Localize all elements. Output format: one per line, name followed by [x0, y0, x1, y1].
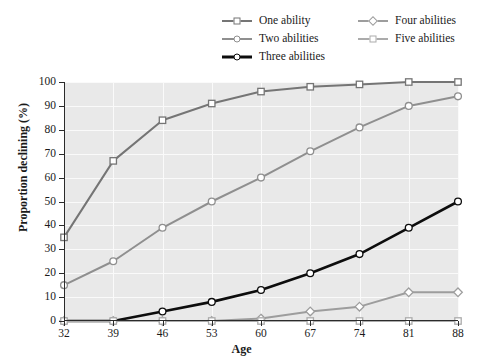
series-line	[64, 202, 458, 322]
data-point-marker	[110, 258, 117, 265]
y-tick-mark	[59, 297, 64, 298]
x-tick-mark	[261, 321, 262, 326]
x-tick-mark	[163, 321, 164, 326]
y-tick-label: 30	[30, 243, 56, 255]
data-point-marker	[209, 100, 215, 106]
legend-item-three-abilities[interactable]: Three abilities	[222, 48, 325, 66]
legend-marker-icon	[234, 36, 241, 43]
data-point-marker	[356, 251, 363, 258]
data-point-marker	[356, 81, 362, 87]
y-tick-label: 70	[30, 148, 56, 160]
legend-item-label: Two abilities	[259, 33, 319, 45]
data-point-marker	[307, 270, 314, 277]
legend-marker-icon	[370, 36, 377, 43]
y-axis-line	[64, 82, 65, 321]
data-point-marker	[306, 307, 315, 316]
data-point-marker	[110, 158, 116, 164]
y-tick-label: 20	[30, 267, 56, 279]
y-tick-label: 0	[30, 315, 56, 327]
x-tick-label: 60	[246, 328, 276, 340]
chart-legend: One abilityTwo abilitiesThree abilities …	[222, 12, 480, 72]
legend-item-label: One ability	[259, 15, 310, 27]
y-tick-label: 90	[30, 100, 56, 112]
data-point-marker	[208, 298, 215, 305]
legend-column-left: One abilityTwo abilitiesThree abilities	[222, 12, 325, 66]
y-tick-label: 50	[30, 196, 56, 208]
legend-item-label: Four abilities	[395, 15, 456, 27]
y-tick-mark	[59, 178, 64, 179]
data-point-marker	[405, 224, 412, 231]
y-tick-mark	[59, 82, 64, 83]
series-2	[61, 93, 462, 289]
x-tick-label: 74	[345, 328, 375, 340]
legend-item-label: Five abilities	[395, 33, 455, 45]
legend-circle-icon	[222, 33, 252, 45]
y-tick-mark	[59, 154, 64, 155]
x-tick-mark	[64, 321, 65, 326]
data-point-marker	[406, 79, 412, 85]
x-tick-label: 67	[295, 328, 325, 340]
x-tick-mark	[409, 321, 410, 326]
data-point-marker	[307, 148, 314, 155]
data-point-marker	[455, 93, 462, 100]
y-tick-mark	[59, 273, 64, 274]
data-point-marker	[455, 79, 461, 85]
y-tick-mark	[59, 225, 64, 226]
y-axis-title: Proportion declining (%)	[16, 93, 31, 243]
series-layer	[64, 82, 458, 321]
legend-square-icon	[358, 33, 388, 45]
y-tick-mark	[59, 106, 64, 107]
y-tick-label: 80	[30, 124, 56, 136]
data-point-marker	[208, 198, 215, 205]
data-point-marker	[356, 124, 363, 131]
x-tick-label: 46	[148, 328, 178, 340]
x-tick-mark	[310, 321, 311, 326]
y-tick-label: 60	[30, 172, 56, 184]
legend-item-two-abilities[interactable]: Two abilities	[222, 30, 325, 48]
y-tick-label: 40	[30, 219, 56, 231]
data-point-marker	[159, 117, 165, 123]
x-tick-label: 88	[443, 328, 473, 340]
data-point-marker	[159, 308, 166, 315]
data-point-marker	[404, 288, 413, 297]
legend-item-four-abilities[interactable]: Four abilities	[358, 12, 456, 30]
data-point-marker	[455, 198, 462, 205]
y-tick-mark	[59, 202, 64, 203]
series-3	[61, 198, 462, 324]
legend-marker-icon	[234, 18, 241, 25]
data-point-marker	[454, 288, 463, 297]
legend-item-one-ability[interactable]: One ability	[222, 12, 325, 30]
x-tick-mark	[360, 321, 361, 326]
x-axis-title: Age	[0, 342, 483, 357]
x-tick-label: 53	[197, 328, 227, 340]
data-point-marker	[355, 302, 364, 311]
legend-square-icon	[222, 15, 252, 27]
series-line	[64, 96, 458, 285]
series-line	[64, 82, 458, 237]
y-tick-label: 100	[30, 76, 56, 88]
data-point-marker	[307, 84, 313, 90]
x-tick-label: 81	[394, 328, 424, 340]
legend-item-five-abilities[interactable]: Five abilities	[358, 30, 456, 48]
data-point-marker	[405, 103, 412, 110]
x-tick-mark	[212, 321, 213, 326]
chart-root: One abilityTwo abilitiesThree abilities …	[0, 0, 483, 364]
x-tick-label: 32	[49, 328, 79, 340]
legend-item-label: Three abilities	[259, 51, 325, 63]
data-point-marker	[159, 224, 166, 231]
data-point-marker	[258, 287, 265, 294]
data-point-marker	[258, 88, 264, 94]
legend-diamond-icon	[358, 15, 388, 27]
legend-column-right: Four abilitiesFive abilities	[358, 12, 456, 48]
y-tick-label: 10	[30, 291, 56, 303]
x-tick-label: 39	[98, 328, 128, 340]
legend-circle-icon	[222, 51, 252, 63]
x-tick-mark	[458, 321, 459, 326]
series-1	[61, 79, 461, 241]
y-tick-mark	[59, 249, 64, 250]
x-tick-mark	[113, 321, 114, 326]
legend-marker-icon	[234, 54, 241, 61]
legend-marker-icon	[368, 16, 378, 26]
y-tick-mark	[59, 130, 64, 131]
data-point-marker	[258, 174, 265, 181]
